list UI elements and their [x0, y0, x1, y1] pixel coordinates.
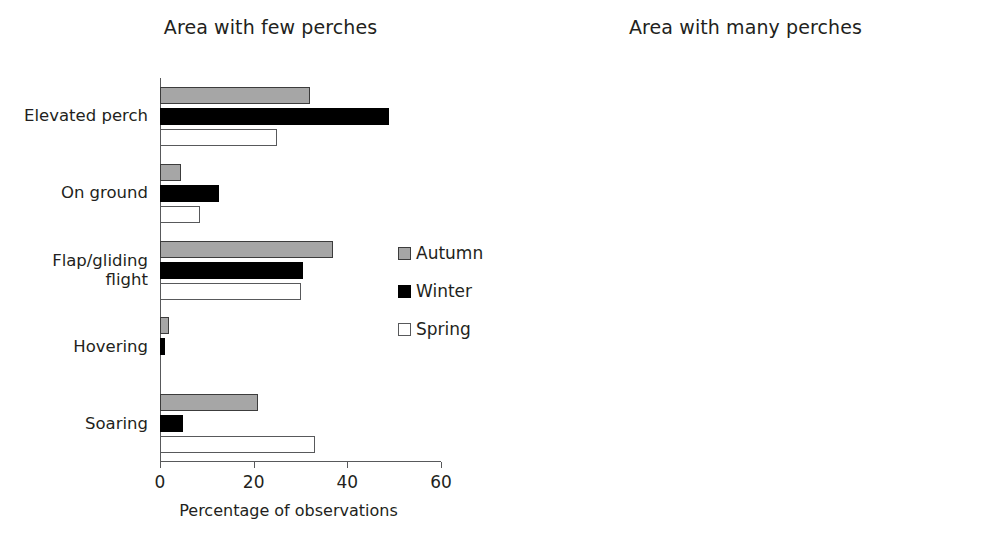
- x-tick-left-60: [441, 462, 442, 468]
- legend: AutumnWinterSpring: [398, 243, 483, 357]
- legend-label-autumn: Autumn: [416, 243, 483, 263]
- category-label-4: Soaring: [0, 414, 148, 433]
- bar-left-3-winter: [160, 338, 165, 355]
- x-tick-label-left-40: 40: [337, 472, 359, 492]
- figure-root: Area with few perches Percentage of obse…: [0, 0, 1006, 539]
- bar-left-1-autumn: [160, 164, 181, 181]
- bar-left-1-winter: [160, 185, 219, 202]
- legend-item-winter[interactable]: Winter: [398, 281, 483, 301]
- bar-left-4-autumn: [160, 394, 258, 411]
- x-tick-left-40: [347, 462, 348, 468]
- bar-left-0-winter: [160, 108, 389, 125]
- x-axis-line-left: [160, 461, 441, 462]
- x-tick-left-0: [160, 462, 161, 468]
- legend-item-autumn[interactable]: Autumn: [398, 243, 483, 263]
- panel-title-left: Area with few perches: [0, 16, 503, 38]
- bar-left-0-spring: [160, 129, 277, 146]
- legend-swatch-winter-icon: [398, 285, 411, 298]
- x-tick-label-left-0: 0: [155, 472, 166, 492]
- bar-left-4-spring: [160, 436, 315, 453]
- category-label-3: Hovering: [0, 337, 148, 356]
- bar-left-4-winter: [160, 415, 183, 432]
- x-tick-left-20: [254, 462, 255, 468]
- bar-left-3-autumn: [160, 317, 169, 334]
- category-label-0: Elevated perch: [0, 106, 148, 125]
- bar-left-0-autumn: [160, 87, 310, 104]
- legend-swatch-autumn-icon: [398, 247, 411, 260]
- panel-many-perches: Area with many perches Percentage of obs…: [503, 0, 1006, 539]
- bar-left-1-spring: [160, 206, 200, 223]
- panel-title-right: Area with many perches: [503, 16, 1006, 38]
- x-tick-label-left-60: 60: [430, 472, 452, 492]
- bar-group-left-4: Soaring: [160, 394, 441, 453]
- bar-left-2-winter: [160, 262, 303, 279]
- legend-label-winter: Winter: [416, 281, 472, 301]
- category-label-1: On ground: [0, 183, 148, 202]
- bar-left-2-autumn: [160, 241, 333, 258]
- bar-left-2-spring: [160, 283, 301, 300]
- x-tick-label-left-20: 20: [243, 472, 265, 492]
- legend-swatch-spring-icon: [398, 323, 411, 336]
- caption-strip: [0, 513, 1006, 539]
- legend-item-spring[interactable]: Spring: [398, 319, 483, 339]
- legend-label-spring: Spring: [416, 319, 471, 339]
- bar-group-left-1: On ground: [160, 164, 441, 223]
- category-label-2: Flap/gliding flight: [0, 251, 148, 289]
- bar-group-left-0: Elevated perch: [160, 87, 441, 146]
